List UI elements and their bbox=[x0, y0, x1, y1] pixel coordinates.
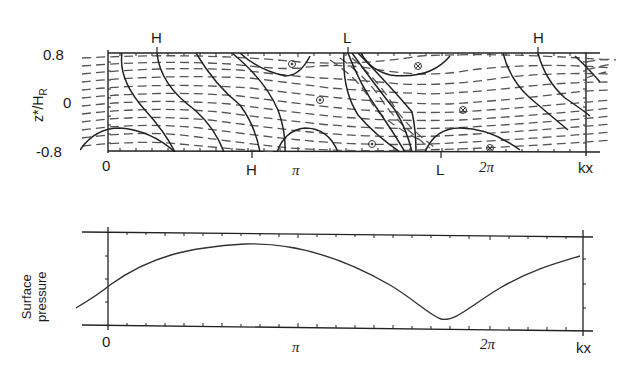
marker-low-top: L bbox=[343, 30, 351, 45]
top-panel bbox=[80, 47, 616, 158]
bottom-frame-bottom bbox=[82, 325, 593, 331]
top-ylabel: z*/HR bbox=[30, 88, 49, 122]
bottom-ylabel: Surfacepressure bbox=[20, 271, 50, 322]
marker-low-bottom: L bbox=[436, 162, 444, 177]
bottom-xtick-2pi: 2π bbox=[480, 337, 495, 352]
dot-symbol-icon bbox=[317, 97, 324, 104]
top-ytick-mid: 0 bbox=[63, 95, 71, 110]
bottom-ylabel-line1: Surface bbox=[19, 274, 34, 319]
top-ylabel-subscript: R bbox=[38, 88, 49, 95]
solid-contours bbox=[80, 53, 600, 152]
top-xtick-0: 0 bbox=[102, 158, 110, 173]
cross-symbol-icon bbox=[415, 63, 422, 70]
top-axis-ticks bbox=[108, 53, 586, 152]
top-xlabel: kx bbox=[578, 160, 593, 175]
figure-canvas bbox=[0, 0, 629, 372]
cross-symbol-icon bbox=[460, 107, 467, 114]
bottom-xtick-pi: π bbox=[292, 340, 300, 355]
bottom-xlabel: kx bbox=[576, 340, 591, 355]
dashed-overflow bbox=[586, 59, 616, 78]
bottom-xtick-0: 0 bbox=[102, 334, 110, 349]
top-xtick-pi: π bbox=[292, 163, 300, 178]
top-xtick-2pi: 2π bbox=[479, 160, 494, 175]
top-ytick-bottom: -0.8 bbox=[36, 144, 62, 159]
top-ytick-top: 0.8 bbox=[43, 47, 64, 62]
marker-high-bottom: H bbox=[246, 162, 257, 177]
marker-high-top-1: H bbox=[151, 30, 162, 45]
marker-high-top-2: H bbox=[533, 30, 544, 45]
top-ylabel-text: z*/H bbox=[30, 96, 46, 122]
bottom-ylabel-line2: pressure bbox=[34, 271, 49, 322]
bottom-panel bbox=[76, 227, 593, 336]
surface-pressure-curve bbox=[76, 244, 580, 320]
bottom-frame-top bbox=[82, 232, 593, 237]
